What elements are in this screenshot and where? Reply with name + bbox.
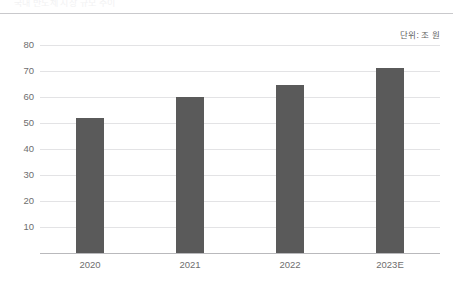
y-axis-tick-label: 20 [0,196,34,206]
bar-chart-plot-area: 10203040506070802020202120222023E [0,0,453,293]
y-axis-tick-label: 40 [0,144,34,154]
bar [276,85,304,253]
x-axis-tick-label: 2020 [40,260,140,270]
gridline [40,45,440,46]
y-axis-tick-label: 30 [0,170,34,180]
bar [376,68,404,253]
y-axis-tick-label: 50 [0,118,34,128]
y-axis-tick-label: 70 [0,66,34,76]
x-axis-tick-label: 2021 [140,260,240,270]
y-axis-tick-label: 60 [0,92,34,102]
bar [76,118,104,253]
x-axis-baseline [40,253,440,254]
y-axis-tick-label: 80 [0,40,34,50]
x-axis-tick-label: 2022 [240,260,340,270]
bar [176,97,204,253]
y-axis-tick-label: 10 [0,222,34,232]
x-axis-tick-label: 2023E [340,260,440,270]
